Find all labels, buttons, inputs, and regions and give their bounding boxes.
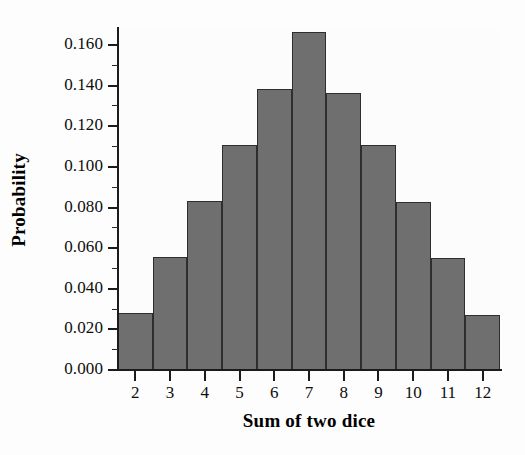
bar-9 bbox=[361, 145, 396, 370]
bar-7 bbox=[292, 32, 327, 370]
bar-12 bbox=[465, 315, 500, 370]
y-axis-line bbox=[117, 27, 119, 371]
y-tick-0.080 bbox=[108, 207, 118, 209]
x-tick-10 bbox=[412, 371, 414, 381]
y-tick-0.020 bbox=[108, 328, 118, 330]
x-tick-8 bbox=[343, 371, 345, 381]
y-minor-tick bbox=[112, 227, 118, 228]
y-tick-label-0.000: 0.000 bbox=[33, 359, 103, 379]
figure-canvas: 0.0000.0200.0400.0600.0800.1000.1200.140… bbox=[0, 0, 525, 455]
y-minor-tick bbox=[112, 65, 118, 66]
y-tick-0.160 bbox=[108, 44, 118, 46]
y-tick-label-0.160: 0.160 bbox=[33, 34, 103, 54]
y-tick-label-0.080: 0.080 bbox=[33, 197, 103, 217]
bar-2 bbox=[118, 313, 153, 370]
y-tick-0.000 bbox=[108, 369, 118, 371]
x-tick-4 bbox=[204, 371, 206, 381]
x-tick-3 bbox=[169, 371, 171, 381]
y-tick-label-0.060: 0.060 bbox=[33, 237, 103, 257]
y-tick-0.140 bbox=[108, 85, 118, 87]
y-minor-tick bbox=[112, 309, 118, 310]
x-tick-11 bbox=[447, 371, 449, 381]
bar-11 bbox=[431, 258, 466, 370]
x-axis-title: Sum of two dice bbox=[118, 410, 500, 432]
x-tick-9 bbox=[377, 371, 379, 381]
y-tick-label-0.040: 0.040 bbox=[33, 278, 103, 298]
y-tick-0.060 bbox=[108, 247, 118, 249]
bar-10 bbox=[396, 202, 431, 370]
y-tick-label-0.140: 0.140 bbox=[33, 75, 103, 95]
bar-4 bbox=[187, 201, 222, 370]
y-tick-0.040 bbox=[108, 288, 118, 290]
y-tick-0.120 bbox=[108, 125, 118, 127]
y-axis-title: Probability bbox=[8, 120, 30, 280]
y-tick-0.100 bbox=[108, 166, 118, 168]
bar-3 bbox=[153, 257, 188, 370]
x-tick-6 bbox=[273, 371, 275, 381]
x-tick-7 bbox=[308, 371, 310, 381]
y-minor-tick bbox=[112, 105, 118, 106]
y-tick-label-0.120: 0.120 bbox=[33, 115, 103, 135]
y-tick-label-0.100: 0.100 bbox=[33, 156, 103, 176]
y-tick-label-0.020: 0.020 bbox=[33, 318, 103, 338]
bar-5 bbox=[222, 145, 257, 370]
x-tick-5 bbox=[239, 371, 241, 381]
bar-6 bbox=[257, 89, 292, 370]
bar-8 bbox=[326, 93, 361, 370]
x-tick-12 bbox=[482, 371, 484, 381]
y-minor-tick bbox=[112, 146, 118, 147]
x-tick-2 bbox=[134, 371, 136, 381]
x-tick-label-12: 12 bbox=[463, 383, 503, 403]
y-minor-tick bbox=[112, 268, 118, 269]
y-minor-tick bbox=[112, 349, 118, 350]
y-minor-tick bbox=[112, 187, 118, 188]
